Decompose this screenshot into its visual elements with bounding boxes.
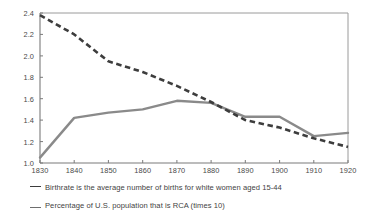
- y-tick-label: 2.4: [12, 9, 34, 18]
- series-line-birthrate: [40, 15, 348, 147]
- x-tick-label: 1910: [296, 166, 332, 175]
- x-tick-label: 1830: [22, 166, 58, 175]
- solid-line-marker-icon: [30, 201, 41, 210]
- x-tick-label: 1900: [262, 166, 298, 175]
- x-tick-label: 1880: [193, 166, 229, 175]
- y-tick-label: 2.2: [12, 30, 34, 39]
- y-tick-label: 1.8: [12, 73, 34, 82]
- legend-item-rca-percentage: Percentage of U.S. population that is RC…: [30, 199, 225, 211]
- legend-item-birthrate: Birthrate is the average number of birth…: [30, 181, 282, 193]
- chart-canvas: [0, 0, 377, 176]
- x-tick-label: 1920: [330, 166, 366, 175]
- chart-legend: Birthrate is the average number of birth…: [0, 176, 377, 218]
- series-line-rca-percentage: [40, 101, 348, 158]
- legend-label: Birthrate is the average number of birth…: [45, 183, 282, 192]
- y-tick-label: 1.4: [12, 116, 34, 125]
- axes-frame: [40, 13, 348, 163]
- y-tick-label: 1.6: [12, 95, 34, 104]
- x-tick-label: 1850: [90, 166, 126, 175]
- y-tick-label: 2.0: [12, 52, 34, 61]
- x-tick-label: 1890: [227, 166, 263, 175]
- chart-plot-area: 2.4 2.2 2.0 1.8 1.6 1.4 1.2 1.0 1830 184…: [0, 0, 377, 176]
- x-tick-label: 1840: [56, 166, 92, 175]
- chart-figure: 2.4 2.2 2.0 1.8 1.6 1.4 1.2 1.0 1830 184…: [0, 0, 377, 218]
- dash-marker-icon: [30, 183, 41, 192]
- x-tick-label: 1860: [125, 166, 161, 175]
- y-tick-label: 1.2: [12, 138, 34, 147]
- x-tick-label: 1870: [159, 166, 195, 175]
- legend-label: Percentage of U.S. population that is RC…: [45, 201, 225, 210]
